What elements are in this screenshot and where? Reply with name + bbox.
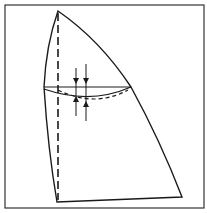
force-arrow-pair-right xyxy=(83,64,89,121)
arrow-down-icon xyxy=(83,78,89,84)
arrow-up-icon xyxy=(83,101,89,107)
sail-diagram-svg xyxy=(0,0,207,213)
force-arrow-pair-left xyxy=(73,68,79,116)
sail-outline xyxy=(44,11,182,202)
arrow-down-icon xyxy=(73,78,79,84)
sail-diagram xyxy=(0,0,207,213)
camber-curve-solid xyxy=(44,87,131,97)
